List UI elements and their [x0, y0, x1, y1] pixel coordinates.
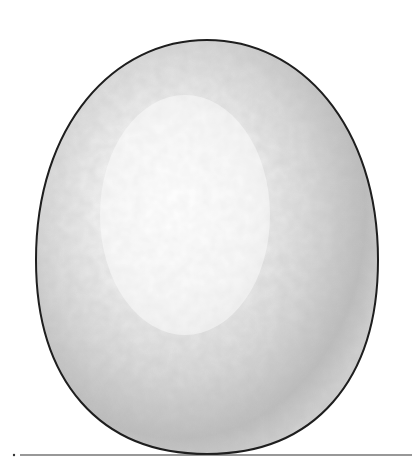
egg-texture [36, 40, 378, 454]
ground-dot [13, 454, 15, 456]
egg-illustration [0, 0, 412, 469]
